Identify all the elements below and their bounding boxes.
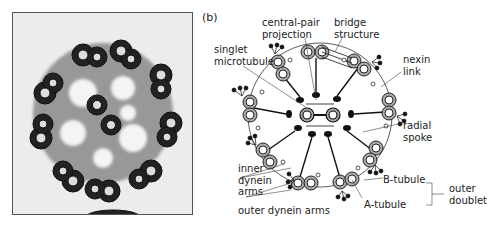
- label-a-tubule: A-tubule: [364, 199, 406, 211]
- axoneme-diagram: [0, 0, 504, 233]
- label-radial-spoke: radial spoke: [403, 120, 432, 143]
- label-bridge-structure: bridge structure: [334, 17, 379, 40]
- label-nexin-link: nexin link: [403, 54, 430, 77]
- label-outer-doublet: outer doublet: [449, 183, 487, 206]
- label-singlet-microtubule: singlet microtubule: [214, 44, 274, 67]
- label-central-pair-projection: central-pair projection: [262, 17, 320, 40]
- label-inner-dynein-arms: inner dynein arms: [238, 163, 272, 198]
- label-b-tubule: B-tubule: [383, 174, 425, 186]
- label-outer-dynein-arms: outer dynein arms: [238, 205, 330, 217]
